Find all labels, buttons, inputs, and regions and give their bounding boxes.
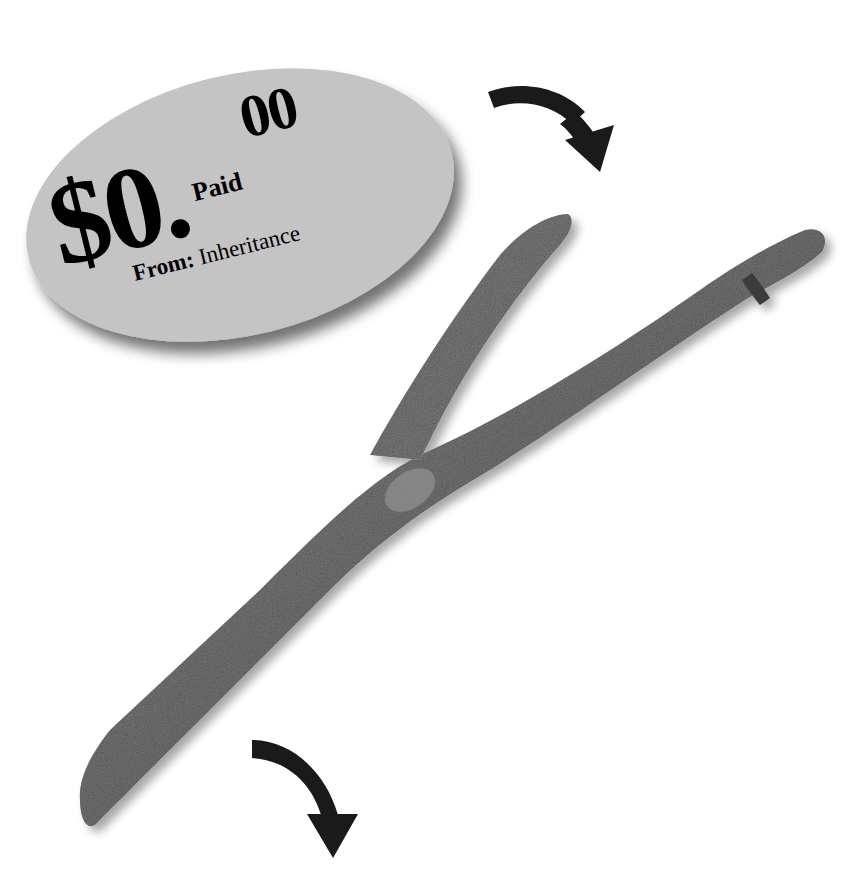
price-tag-text: $0. 00 Paid From: Inheritance xyxy=(0,0,860,889)
from-value: Inheritance xyxy=(196,220,302,269)
amount-cents: 00 xyxy=(233,76,302,148)
payment-status: Paid xyxy=(190,169,245,206)
illustration: $0. 00 Paid From: Inheritance xyxy=(0,0,860,889)
